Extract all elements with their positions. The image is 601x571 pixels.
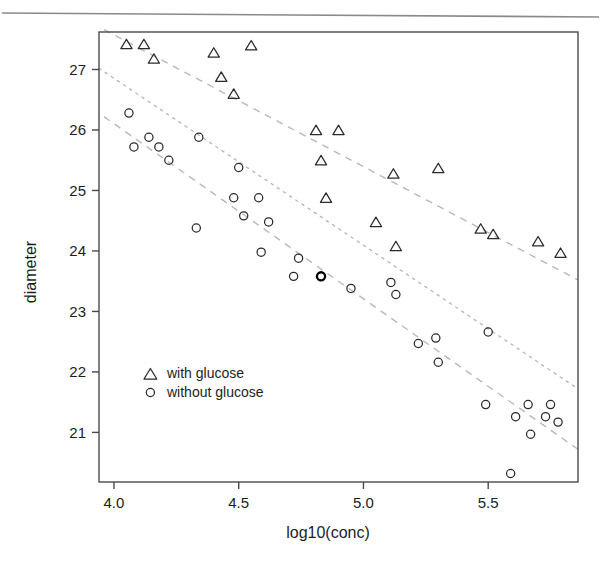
trend-line-middle: [99, 68, 578, 389]
data-point-circle-highlighted: [317, 272, 325, 280]
data-point-circle: [432, 334, 440, 342]
series-with-glucose-markers: [121, 39, 566, 257]
data-point-triangle: [216, 72, 227, 81]
legend: with glucose without glucose: [144, 365, 264, 400]
data-point-circle: [554, 418, 562, 426]
x-tick-label: 5.5: [478, 494, 499, 511]
x-axis-title: log10(conc): [286, 524, 370, 541]
x-tick-label: 4.5: [228, 494, 249, 511]
y-tick-label: 25: [69, 182, 86, 199]
y-axis-title: diameter: [22, 240, 39, 303]
data-point-triangle: [320, 193, 331, 202]
y-tick-label: 27: [69, 61, 86, 78]
data-point-circle: [294, 254, 302, 262]
data-point-circle: [265, 218, 273, 226]
x-tick-label: 5.0: [353, 494, 374, 511]
data-point-triangle: [555, 248, 566, 257]
y-tick-label: 24: [69, 242, 86, 259]
data-point-triangle: [333, 125, 344, 134]
data-point-triangle: [370, 217, 381, 226]
data-point-circle: [527, 430, 535, 438]
data-point-circle: [192, 224, 200, 232]
data-point-triangle: [390, 241, 401, 250]
legend-triangle-icon: [144, 369, 157, 380]
data-point-circle: [524, 400, 532, 408]
data-point-circle: [507, 469, 515, 477]
data-point-circle: [240, 212, 248, 220]
y-tick-label: 22: [69, 363, 86, 380]
data-point-circle: [546, 400, 554, 408]
data-point-circle: [155, 143, 163, 151]
data-point-circle: [145, 133, 153, 141]
data-point-circle: [255, 194, 263, 202]
data-point-circle: [434, 358, 442, 366]
y-tick-label: 21: [69, 424, 86, 441]
plot-frame: [99, 32, 578, 482]
figure-container: 21222324252627 4.04.55.05.5 log10(conc) …: [0, 0, 601, 571]
data-point-triangle: [388, 169, 399, 178]
y-axis-ticks: 21222324252627: [69, 61, 99, 441]
data-point-triangle: [433, 163, 444, 172]
data-point-circle: [235, 163, 243, 171]
data-point-triangle: [208, 48, 219, 57]
data-point-triangle: [246, 40, 257, 49]
data-point-circle: [289, 272, 297, 280]
data-point-triangle: [475, 224, 486, 233]
data-point-circle: [125, 109, 133, 117]
data-point-triangle: [228, 89, 239, 98]
data-point-circle: [414, 339, 422, 347]
data-point-triangle: [532, 236, 543, 245]
data-point-circle: [392, 290, 400, 298]
legend-label-without-glucose: without glucose: [166, 384, 264, 400]
scatter-plot: 21222324252627 4.04.55.05.5 log10(conc) …: [0, 0, 601, 571]
data-point-circle: [541, 413, 549, 421]
data-point-triangle: [138, 39, 149, 48]
data-point-circle: [130, 143, 138, 151]
legend-label-with-glucose: with glucose: [166, 365, 244, 381]
x-tick-label: 4.0: [104, 494, 125, 511]
data-point-circle: [512, 413, 520, 421]
data-point-circle: [165, 156, 173, 164]
data-point-circle: [482, 400, 490, 408]
data-point-circle: [257, 248, 265, 256]
trend-line-with-glucose: [104, 30, 578, 280]
data-point-circle: [387, 278, 395, 286]
y-tick-label: 26: [69, 121, 86, 138]
data-point-triangle: [310, 125, 321, 134]
data-point-circle: [230, 194, 238, 202]
data-point-triangle: [315, 155, 326, 164]
series-without-glucose-markers: [125, 109, 562, 478]
x-axis-ticks: 4.04.55.05.5: [104, 482, 499, 511]
data-point-circle: [347, 284, 355, 292]
y-tick-label: 23: [69, 303, 86, 320]
legend-circle-icon: [146, 388, 154, 396]
